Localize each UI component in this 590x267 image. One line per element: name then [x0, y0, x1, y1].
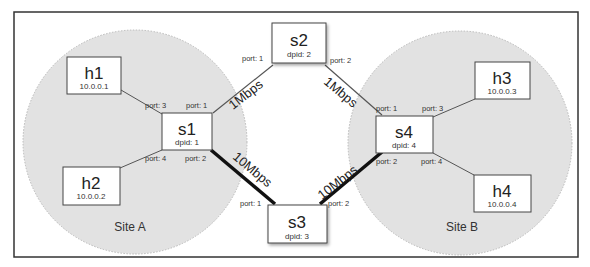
host-h1-name: h1: [85, 64, 104, 83]
switch-s2-dpid: dpid: 2: [287, 50, 312, 59]
port-label-s2-s1: port: 1: [242, 54, 263, 63]
host-h2-ip: 10.0.0.2: [77, 192, 106, 201]
port-label-s1-h2: port: 4: [145, 154, 166, 163]
port-label-s1-h1: port: 3: [145, 101, 166, 110]
switch-s3[interactable]: s3 dpid: 3: [268, 205, 327, 243]
port-label-s2-s4: port: 2: [330, 56, 351, 65]
port-label-s3-s4: port: 2: [328, 199, 349, 208]
switch-s3-name: s3: [288, 213, 306, 232]
site-a-label: Site A: [114, 220, 145, 234]
host-h1-ip: 10.0.0.1: [80, 82, 109, 91]
host-h3[interactable]: h3 10.0.0.3: [475, 62, 530, 99]
host-h1[interactable]: h1 10.0.0.1: [67, 57, 121, 94]
port-label-s4-s2: port: 1: [376, 104, 397, 113]
switch-s2-name: s2: [290, 31, 308, 50]
host-h4[interactable]: h4 10.0.0.4: [474, 175, 531, 212]
host-h2-name: h2: [82, 174, 101, 193]
switch-s1[interactable]: s1 dpid: 1: [162, 113, 212, 150]
switch-s4[interactable]: s4 dpid: 4: [376, 116, 433, 153]
switch-s2[interactable]: s2 dpid: 2: [272, 23, 326, 63]
network-diagram: 1Mbps 1Mbps 10Mbps 10Mbps h1 10.0.0.1 h2…: [0, 0, 590, 267]
switch-s1-dpid: dpid: 1: [175, 138, 200, 147]
port-label-s3-s1: port: 1: [240, 199, 261, 208]
host-h4-name: h4: [493, 182, 512, 201]
switch-s4-name: s4: [395, 123, 413, 142]
port-label-s1-s3: port: 2: [185, 154, 206, 163]
host-h3-ip: 10.0.0.3: [488, 87, 517, 96]
host-h4-ip: 10.0.0.4: [488, 200, 517, 209]
port-label-s4-h4: port: 4: [421, 157, 442, 166]
port-label-s1-s2: port: 1: [186, 101, 207, 110]
host-h2[interactable]: h2 10.0.0.2: [63, 167, 120, 205]
site-b-label: Site B: [446, 220, 478, 234]
switch-s1-name: s1: [178, 120, 196, 139]
port-label-s4-s3: port: 2: [376, 157, 397, 166]
host-h3-name: h3: [493, 69, 512, 88]
switch-s3-dpid: dpid: 3: [285, 232, 310, 241]
switch-s4-dpid: dpid: 4: [392, 141, 417, 150]
port-label-s4-h3: port: 3: [422, 104, 443, 113]
